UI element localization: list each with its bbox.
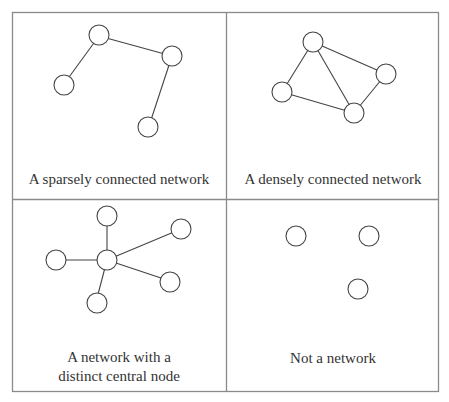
node [89, 25, 109, 45]
panel-central-node-network [46, 206, 191, 313]
caption-sparse: A sparsely connected network [29, 171, 210, 187]
node [171, 219, 191, 239]
node [46, 250, 66, 270]
caption-central-line2: distinct central node [58, 368, 180, 384]
node [54, 75, 74, 95]
panel-not-a-network [286, 226, 379, 299]
node [359, 226, 379, 246]
node [87, 293, 107, 313]
node [162, 46, 182, 66]
node [344, 103, 364, 123]
caption-central-line1: A network with a [67, 349, 171, 365]
node [286, 226, 306, 246]
node [160, 272, 180, 292]
node [348, 279, 368, 299]
node [97, 206, 117, 226]
caption-dense: A densely connected network [244, 171, 422, 187]
panel-sparse-network [54, 25, 182, 137]
node-central [97, 250, 117, 270]
node [272, 82, 292, 102]
node [376, 64, 396, 84]
caption-none: Not a network [290, 350, 376, 366]
panel-dense-network [272, 32, 396, 123]
network-types-diagram: A sparsely connected network A densely c… [0, 0, 449, 402]
node [303, 32, 323, 52]
node [138, 117, 158, 137]
